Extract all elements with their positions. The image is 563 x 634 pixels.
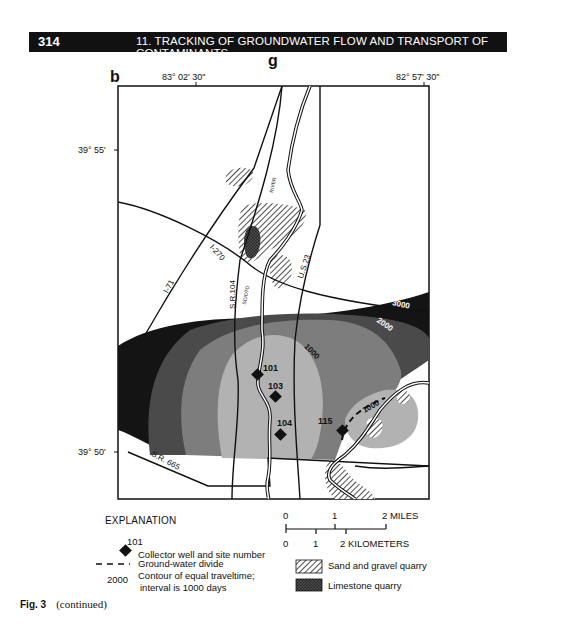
figure-caption: Fig. 3(continued) bbox=[20, 598, 107, 610]
legend-limestone-swatch bbox=[296, 579, 322, 591]
well-label-103: 103 bbox=[268, 381, 283, 391]
longitude-label-east: 82° 57' 30" bbox=[396, 72, 440, 82]
legend-sand-gravel-swatch bbox=[296, 560, 322, 573]
scale-km-1: 1 bbox=[313, 538, 318, 550]
well-label-115: 115 bbox=[318, 416, 333, 426]
well-label-101: 101 bbox=[263, 363, 278, 373]
well-label-104: 104 bbox=[277, 418, 292, 428]
legend-well-number: 101 bbox=[127, 536, 143, 548]
scale-miles-1: 1 bbox=[332, 510, 337, 522]
groundwater-traveltime-map bbox=[0, 0, 563, 634]
legend-title: EXPLANATION bbox=[105, 515, 176, 526]
figure-number: Fig. 3 bbox=[20, 599, 46, 610]
figure-note: (continued) bbox=[56, 598, 107, 610]
legend-contour-example: 2000 bbox=[107, 574, 128, 586]
legend-sand-gravel-text: Sand and gravel quarry bbox=[328, 560, 427, 572]
legend-contour-text-2: interval is 1000 days bbox=[140, 582, 227, 594]
legend-contour-text: Contour of equal traveltime; bbox=[138, 570, 255, 582]
latitude-label-lower: 39° 50' bbox=[78, 447, 106, 457]
scale-km-0: 0 bbox=[283, 538, 288, 550]
legend-limestone-text: Limestone quarry bbox=[328, 580, 401, 592]
scale-km-2: 2 KILOMETERS bbox=[340, 538, 409, 550]
latitude-label-upper: 39° 55' bbox=[78, 145, 106, 155]
legend-divide-text: Ground-water divide bbox=[138, 558, 224, 570]
scale-bar bbox=[286, 524, 386, 534]
road-label-sr-104: S.R.104 bbox=[228, 280, 237, 309]
scale-miles-0: 0 bbox=[283, 510, 288, 522]
longitude-label-west: 83° 02' 30" bbox=[162, 72, 206, 82]
scale-miles-2: 2 MILES bbox=[382, 510, 418, 522]
